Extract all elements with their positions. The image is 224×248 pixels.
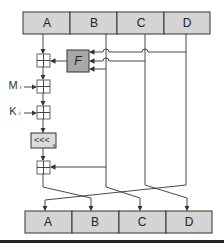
rotate-label: <<< <box>34 135 50 145</box>
message-input-label: M <box>8 79 17 91</box>
bottom-label-b: B <box>91 215 99 229</box>
adder-3 <box>37 106 50 119</box>
top-register-row: A B C D <box>23 12 210 34</box>
bottom-label-c: C <box>138 215 147 229</box>
top-label-d: D <box>183 16 192 30</box>
top-label-b: B <box>90 16 98 30</box>
bottom-register-row: A B C D <box>25 211 212 233</box>
wire-to-new-b <box>43 174 91 210</box>
adder-2 <box>37 80 50 93</box>
bottom-label-d: D <box>185 215 194 229</box>
function-f-label: F <box>74 54 82 68</box>
wire-d-to-f <box>90 49 186 52</box>
wire-c-to-f <box>90 58 145 61</box>
top-label-a: A <box>43 16 51 30</box>
bottom-rule <box>0 240 224 243</box>
bottom-label-a: A <box>44 215 52 229</box>
constant-subscript: i <box>19 110 20 116</box>
wire-to-new-c <box>106 167 140 210</box>
adder-1 <box>37 54 50 67</box>
top-label-c: C <box>137 16 146 30</box>
md5-step-diagram: A B C D <<< s M i K i F <box>0 0 224 248</box>
adder-4 <box>37 161 50 174</box>
message-subscript: i <box>20 84 21 90</box>
wire-to-new-a <box>45 185 186 210</box>
constant-input-label: K <box>9 105 17 117</box>
